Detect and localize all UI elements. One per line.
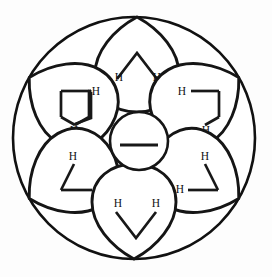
hydrogen-label: H bbox=[201, 150, 209, 162]
hydrogen-label: H bbox=[178, 85, 186, 97]
hydrogen-label: H bbox=[92, 85, 100, 97]
hydrogen-label: H bbox=[69, 150, 77, 162]
molecule-canvas: H H H H H H bbox=[0, 0, 272, 277]
hydrogen-label: H bbox=[115, 71, 123, 83]
central-ring bbox=[110, 112, 168, 170]
hydrogen-label: H bbox=[152, 197, 160, 209]
hydrogen-label: H bbox=[114, 197, 122, 209]
molecular-diagram: H H H H H H bbox=[0, 0, 272, 277]
hydrogen-label: H bbox=[176, 183, 184, 195]
central-ring-group bbox=[110, 112, 168, 170]
